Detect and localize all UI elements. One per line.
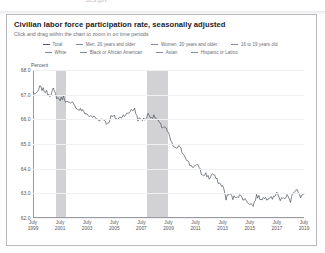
legend-item-asian[interactable]: Asian <box>156 50 177 55</box>
gridline-y <box>33 70 304 71</box>
legend-swatch-icon <box>231 44 238 45</box>
x-tick-year: 2017 <box>264 226 290 232</box>
y-axis-tick-label: 65.0 <box>21 141 31 147</box>
legend-label: Men, 20 years and older <box>86 42 136 47</box>
legend-swatch-icon <box>156 52 163 53</box>
x-tick-year: 2001 <box>47 226 73 232</box>
screenshot-root: BLS.gov Civilian labor force participati… <box>0 0 325 253</box>
chart-card: Civilian labor force participation rate,… <box>6 14 317 246</box>
series-line-total <box>33 86 304 207</box>
x-axis-tick-label: July2013 <box>210 220 236 232</box>
legend-item-total[interactable]: Total <box>43 42 62 47</box>
legend-label: Asian <box>166 50 178 55</box>
legend-swatch-icon <box>151 44 158 45</box>
legend-label: 16 to 19 years old <box>241 42 278 47</box>
gridline-y <box>33 95 304 96</box>
legend-swatch-icon <box>76 44 83 45</box>
legend-item-women-20-years-and-older[interactable]: Women, 20 years and older <box>151 42 217 47</box>
legend-item-black-or-african-american[interactable]: Black or African American <box>80 50 142 55</box>
legend-label: Total <box>53 42 63 47</box>
legend-item-16-to-19-years-old[interactable]: 16 to 19 years old <box>231 42 277 47</box>
gridline-y <box>33 144 304 145</box>
x-tick-year: 2003 <box>74 226 100 232</box>
chart-subtitle: Click and drag within the chart to zoom … <box>14 31 149 37</box>
x-axis-tick-label: July1999 <box>20 220 46 232</box>
x-tick-year: 2013 <box>210 226 236 232</box>
gridline-y <box>33 218 304 219</box>
x-axis-tick-label: July2003 <box>74 220 100 232</box>
x-tick-year: 1999 <box>20 226 46 232</box>
gridline-y <box>33 169 304 170</box>
y-axis-tick-label: 66.0 <box>21 116 31 122</box>
y-axis-label: Percent <box>31 62 48 68</box>
gridline-y <box>33 119 304 120</box>
legend-swatch-icon <box>43 44 50 45</box>
legend-label: Women, 20 years and older <box>161 42 217 47</box>
x-tick-year: 2009 <box>156 226 182 232</box>
legend-label: Black or African American <box>90 50 143 55</box>
legend-item-men-20-years-and-older[interactable]: Men, 20 years and older <box>76 42 135 47</box>
legend-item-hispanic-or-latino[interactable]: Hispanic or Latino <box>191 50 237 55</box>
legend-swatch-icon <box>191 52 198 53</box>
chart-title: Civilian labor force participation rate,… <box>14 20 225 29</box>
legend-label: White <box>55 50 67 55</box>
legend-item-white[interactable]: White <box>45 50 66 55</box>
y-axis-tick-label: 63.0 <box>21 190 31 196</box>
legend-row-2: WhiteBlack or African AmericanAsianHispa… <box>43 48 315 56</box>
x-axis-tick-label: July2009 <box>156 220 182 232</box>
plot-area[interactable]: 62.063.064.065.066.067.068.0July1999July… <box>33 70 304 218</box>
x-axis-tick-label: July2005 <box>101 220 127 232</box>
x-axis-tick-label: July2015 <box>237 220 263 232</box>
x-axis-tick-label: July2001 <box>47 220 73 232</box>
gridline-y <box>33 193 304 194</box>
x-axis-tick-label: July2019 <box>291 220 317 232</box>
y-axis-tick-label: 68.0 <box>21 67 31 73</box>
x-axis-tick-label: July2017 <box>264 220 290 232</box>
x-tick-year: 2005 <box>101 226 127 232</box>
y-axis-tick-label: 67.0 <box>21 92 31 98</box>
x-tick-year: 2019 <box>291 226 317 232</box>
x-tick-year: 2011 <box>183 226 209 232</box>
chart-legend: TotalMen, 20 years and olderWomen, 20 ye… <box>43 40 315 56</box>
plot-wrapper: Percent 62.063.064.065.066.067.068.0July… <box>7 61 318 247</box>
y-axis-tick-label: 64.0 <box>21 166 31 172</box>
legend-row-1: TotalMen, 20 years and olderWomen, 20 ye… <box>43 40 315 48</box>
x-tick-year: 2007 <box>128 226 154 232</box>
page-top-strip: BLS.gov <box>0 0 325 11</box>
legend-swatch-icon <box>45 52 52 53</box>
legend-label: Hispanic or Latino <box>201 50 238 55</box>
x-axis-tick-label: July2007 <box>128 220 154 232</box>
top-strip-text: BLS.gov <box>86 0 107 3</box>
legend-swatch-icon <box>80 52 87 53</box>
x-axis-tick-label: July2011 <box>183 220 209 232</box>
x-tick-year: 2015 <box>237 226 263 232</box>
